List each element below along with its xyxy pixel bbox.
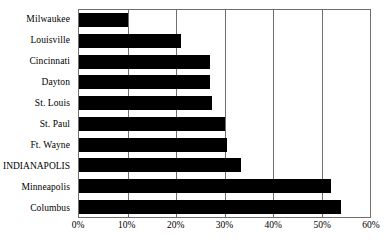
- category-label-louisville: Louisville: [0, 30, 74, 51]
- plot-area: [78, 9, 371, 218]
- bar: [79, 179, 331, 193]
- bar: [79, 158, 241, 172]
- category-label-columbus: Columbus: [0, 197, 74, 218]
- category-label-indianapolis: INDIANAPOLIS: [0, 155, 74, 176]
- bar: [79, 200, 341, 214]
- bar-row: [79, 51, 370, 72]
- value-tick-label: 10%: [118, 220, 135, 230]
- value-tick-label: 20%: [167, 220, 184, 230]
- bar-row: [79, 176, 370, 197]
- value-tick-label: 0%: [72, 220, 85, 230]
- category-label-st-louis: St. Louis: [0, 93, 74, 114]
- bar: [79, 117, 225, 131]
- bar-row: [79, 31, 370, 52]
- category-label-dayton: Dayton: [0, 72, 74, 93]
- bar-row: [79, 196, 370, 217]
- bar: [79, 13, 128, 27]
- bar: [79, 138, 227, 152]
- bar-row: [79, 93, 370, 114]
- bar-row: [79, 10, 370, 31]
- bar: [79, 55, 210, 69]
- category-label-minneapolis: Minneapolis: [0, 176, 74, 197]
- bar-series: [79, 10, 370, 217]
- bar-row: [79, 114, 370, 135]
- bar: [79, 75, 210, 89]
- value-tick-label: 50%: [313, 220, 330, 230]
- category-label-ft-wayne: Ft. Wayne: [0, 134, 74, 155]
- bar: [79, 34, 181, 48]
- category-label-milwaukee: Milwaukee: [0, 9, 74, 30]
- bar-row: [79, 134, 370, 155]
- bar-chart: Milwaukee Louisville Cincinnati Dayton S…: [0, 0, 390, 250]
- bar-row: [79, 155, 370, 176]
- value-tick-label: 60%: [362, 220, 379, 230]
- value-tick-label: 40%: [265, 220, 282, 230]
- category-label-st-paul: St. Paul: [0, 114, 74, 135]
- bar-row: [79, 72, 370, 93]
- category-label-cincinnati: Cincinnati: [0, 51, 74, 72]
- value-axis-labels: 0%10%20%30%40%50%60%: [78, 220, 371, 236]
- category-axis-labels: Milwaukee Louisville Cincinnati Dayton S…: [0, 9, 74, 218]
- value-tick-label: 30%: [216, 220, 233, 230]
- bar: [79, 96, 212, 110]
